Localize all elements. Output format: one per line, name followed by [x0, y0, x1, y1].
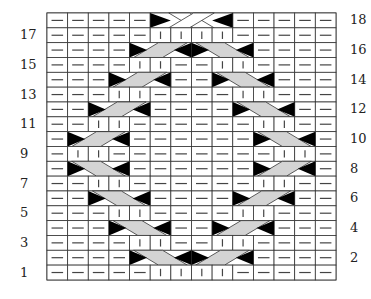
knitting-chart	[0, 0, 371, 299]
